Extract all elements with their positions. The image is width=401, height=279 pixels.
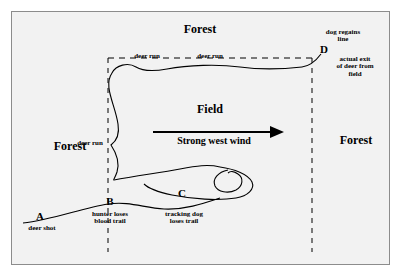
label-forest-top: Forest [160,23,240,36]
point-d-caption-above: dog regains line [312,29,374,44]
diagram-figure: Forest Forest Forest Field Strong west w… [11,11,390,265]
deer-run-left-trail [109,73,119,180]
point-c-caption: tracking dog loses trail [148,211,220,226]
point-d-caption-below: actual exit of deer from field [324,56,386,78]
label-deer-run-top-right: deer run [187,53,233,60]
point-a-label: A [31,211,49,223]
point-a-caption: deer shot [14,225,70,232]
point-d-label: D [315,44,333,56]
label-forest-right: Forest [324,134,388,147]
label-deer-run-left: deer run [69,140,111,147]
point-c-label: C [173,188,191,200]
deer-path-lower [114,166,220,180]
point-b-caption: hunter loses blood trail [74,211,146,226]
dog-track-spiral [214,170,242,192]
label-deer-run-top-left: deer run [124,53,170,60]
label-wind: Strong west wind [152,136,276,147]
point-b-label: B [101,196,119,208]
label-field: Field [180,103,240,116]
